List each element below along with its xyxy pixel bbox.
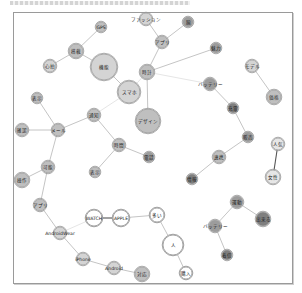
graph-node[interactable]: 購入 xyxy=(179,266,193,280)
node-label: GPS xyxy=(96,25,105,30)
graph-node[interactable]: 機能 xyxy=(90,53,118,81)
graph-node[interactable]: 時計 xyxy=(139,64,155,80)
node-label: 多い xyxy=(152,212,162,219)
node-label: メール xyxy=(51,128,66,133)
graph-node[interactable]: 対応 xyxy=(134,266,150,282)
graph-node[interactable]: デザイン xyxy=(135,108,161,134)
node-label: 人 xyxy=(171,243,176,248)
node-label: iPhone xyxy=(75,257,91,262)
node-label: デザイン xyxy=(138,118,158,125)
graph-node[interactable]: メール xyxy=(51,123,66,137)
node-label: 出来る xyxy=(256,216,271,223)
node-label: 表示 xyxy=(90,169,100,176)
node-label: 運動 xyxy=(232,199,242,206)
graph-node[interactable]: 表示 xyxy=(31,92,43,104)
graph-node[interactable]: 時間 xyxy=(112,138,126,152)
graph-node[interactable]: 人 xyxy=(162,234,184,256)
graph-node[interactable]: 可能 xyxy=(41,160,55,174)
node-label: 搭載 xyxy=(71,48,81,55)
graph-node[interactable]: 着信 xyxy=(221,249,233,261)
graph-node[interactable]: バッテリー xyxy=(198,77,223,91)
node-label: AndroidWear xyxy=(45,231,75,236)
graph-node[interactable]: iPhone xyxy=(75,252,91,266)
graph-node[interactable]: 人気 xyxy=(271,137,285,151)
network-graph: 機能スマホデザイン時計搭載GPS心拍ファッションアプリ腕魅力バッテリー充電モデル… xyxy=(0,0,302,293)
node-label: モデル xyxy=(245,63,260,70)
node-label: 確認 xyxy=(17,127,27,134)
graph-node[interactable]: 通知 xyxy=(87,108,101,122)
node-label: WATCH xyxy=(86,216,102,221)
graph-node[interactable]: APPLE xyxy=(112,209,130,227)
graph-node[interactable]: 表示 xyxy=(89,166,101,178)
graph-node[interactable]: ファッション xyxy=(131,12,161,26)
node-label: 機能 xyxy=(99,64,109,71)
node-label: 女性 xyxy=(268,174,278,181)
graph-node[interactable]: WATCH xyxy=(85,209,103,227)
graph-node[interactable]: 運動 xyxy=(230,195,244,209)
graph-node[interactable]: Android xyxy=(105,261,123,275)
graph-node[interactable]: 出来る xyxy=(255,211,271,227)
graph-node[interactable]: 操作 xyxy=(14,172,30,188)
node-layer: 機能スマホデザイン時計搭載GPS心拍ファッションアプリ腕魅力バッテリー充電モデル… xyxy=(14,12,285,282)
graph-node[interactable]: 多い xyxy=(149,207,165,223)
node-label: 可能 xyxy=(43,164,53,171)
graph-node[interactable]: 販売 xyxy=(242,131,254,143)
node-label: 腕 xyxy=(186,19,191,26)
node-label: Android xyxy=(105,266,123,271)
graph-node[interactable]: バッテリー xyxy=(203,219,228,233)
node-label: 電話 xyxy=(144,154,154,161)
graph-node[interactable]: 搭載 xyxy=(68,43,84,59)
graph-node[interactable]: 連携 xyxy=(212,150,226,164)
graph-node[interactable]: 心拍 xyxy=(43,59,57,73)
graph-node[interactable]: 電話 xyxy=(143,151,155,163)
graph-node[interactable]: モデル xyxy=(245,59,260,73)
node-label: 着信 xyxy=(222,252,232,259)
node-label: 販売 xyxy=(243,134,253,141)
node-label: 心拍 xyxy=(45,63,55,70)
graph-node[interactable]: 充電 xyxy=(227,102,239,114)
node-label: 充電 xyxy=(228,105,238,112)
graph-node[interactable]: 情報 xyxy=(186,173,198,185)
node-label: 人気 xyxy=(273,141,283,148)
graph-node[interactable]: 腕 xyxy=(182,16,194,28)
node-label: 価格 xyxy=(269,94,279,101)
node-label: 魅力 xyxy=(211,45,221,52)
graph-node[interactable]: 確認 xyxy=(15,123,29,137)
graph-node[interactable]: 価格 xyxy=(266,89,282,105)
node-label: 購入 xyxy=(181,270,191,277)
graph-node[interactable]: アプリ xyxy=(33,198,48,212)
node-label: 連携 xyxy=(214,154,224,161)
node-label: APPLE xyxy=(114,216,128,221)
graph-node[interactable]: スマホ xyxy=(117,80,141,104)
node-label: 表示 xyxy=(32,95,42,102)
graph-node[interactable]: 魅力 xyxy=(210,42,222,54)
node-label: 時計 xyxy=(142,69,152,76)
node-label: 対応 xyxy=(137,271,147,278)
graph-node[interactable]: 女性 xyxy=(265,169,281,185)
node-label: 操作 xyxy=(17,177,27,184)
node-label: 通知 xyxy=(89,112,99,119)
graph-node[interactable]: アプリ xyxy=(155,35,170,49)
graph-node[interactable]: GPS xyxy=(95,21,107,33)
node-label: 情報 xyxy=(187,176,197,183)
